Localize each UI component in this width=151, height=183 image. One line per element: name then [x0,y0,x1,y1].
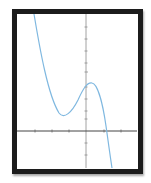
x-axis [17,130,137,133]
chart-plot [0,0,151,183]
curve-line [34,14,112,168]
y-axis [85,14,89,168]
